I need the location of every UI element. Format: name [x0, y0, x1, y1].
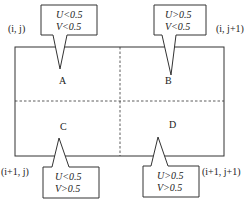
outer-cell-border: [15, 47, 224, 156]
callout-a-u: U<0.5: [56, 9, 82, 20]
callout-b-v: V<0.5: [165, 21, 190, 32]
callout-a: U<0.5 V<0.5: [41, 5, 97, 69]
corner-label-bottom-left: (i+1, j): [1, 166, 29, 178]
corner-label-top-left: (i, j): [8, 23, 25, 35]
callout-d-u: U>0.5: [157, 170, 183, 181]
grid-cell-diagram: (i, j) (i, j+1) (i+1, j) (i+1, j+1) A B …: [0, 0, 245, 205]
callout-d: U>0.5 V>0.5: [143, 137, 199, 197]
corner-label-bottom-right: (i+1, j+1): [202, 166, 241, 178]
callout-b-u: U>0.5: [165, 9, 191, 20]
cell-label-c: C: [60, 121, 67, 132]
callout-c: U<0.5 V>0.5: [43, 138, 99, 198]
cell-label-a: A: [59, 75, 67, 86]
callout-c-u: U<0.5: [55, 171, 81, 182]
corner-label-top-right: (i, j+1): [216, 23, 244, 35]
cell-label-b: B: [165, 75, 172, 86]
callout-b: U>0.5 V<0.5: [154, 5, 206, 75]
cell-label-d: D: [169, 119, 176, 130]
callout-d-v: V>0.5: [157, 182, 182, 193]
callout-c-v: V>0.5: [55, 183, 80, 194]
callout-a-v: V<0.5: [56, 21, 81, 32]
